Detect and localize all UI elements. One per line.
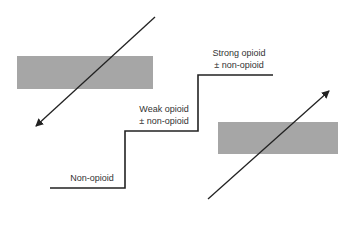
step-label-non-opioid: Non-opioid xyxy=(62,172,122,184)
step-label-weak-opioid: Weak opioid ± non-opioid xyxy=(132,103,196,127)
gray-bar-left xyxy=(17,56,153,89)
step-label-strong-opioid: Strong opioid ± non-opioid xyxy=(204,47,274,71)
gray-bar-right xyxy=(218,122,338,154)
